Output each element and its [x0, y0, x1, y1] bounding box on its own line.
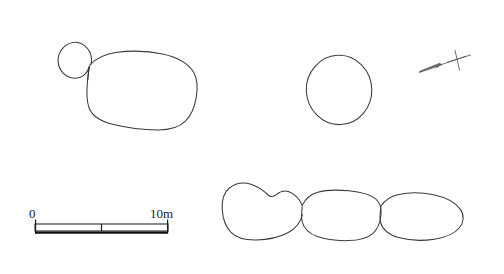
scale-bar	[35, 220, 168, 234]
north-arrow-cross-icon	[455, 50, 460, 70]
plan-drawing-canvas	[0, 0, 504, 274]
north-arrow-head-icon	[419, 63, 441, 73]
north-arrow-cross-bar-icon	[447, 55, 470, 62]
structure-2-circle	[306, 55, 372, 124]
central-cell	[302, 190, 382, 241]
site-plan-figure: 0 10m	[0, 0, 504, 274]
large-oval-enclosure	[87, 51, 197, 130]
north-arrow	[419, 50, 471, 72]
small-circle-annex	[58, 42, 92, 78]
west-cell	[222, 183, 302, 240]
scale-bar-start-label: 0	[29, 207, 36, 220]
east-cell	[380, 193, 463, 240]
structure-1-circle-and-oval	[58, 42, 197, 130]
scale-bar-end-label: 10m	[150, 207, 173, 220]
structure-3-three-cell-compound	[222, 183, 463, 241]
isolated-circular-enclosure	[306, 55, 372, 124]
